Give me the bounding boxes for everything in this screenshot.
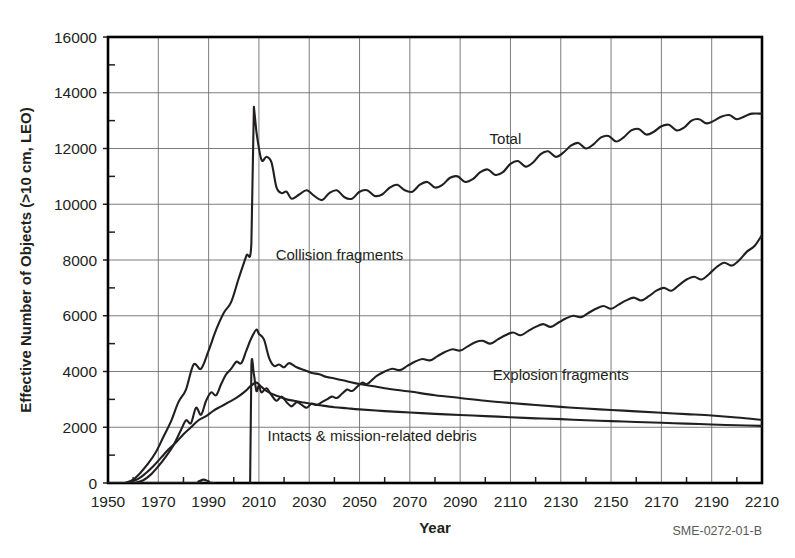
- series-label-intacts-mission-related-debris: Intacts & mission-related debris: [267, 427, 476, 444]
- xtick-label: 2150: [594, 493, 629, 510]
- xtick-label: 1950: [91, 493, 126, 510]
- ytick-label: 4000: [63, 363, 98, 380]
- xtick-label: 2030: [292, 493, 327, 510]
- ytick-label: 10000: [54, 196, 97, 213]
- ytick-label: 8000: [63, 252, 98, 269]
- ytick-label: 0: [88, 475, 97, 492]
- xtick-label: 2010: [242, 493, 277, 510]
- xtick-label: 2130: [544, 493, 579, 510]
- ytick-label: 12000: [54, 140, 97, 157]
- series-label-collision-fragments: Collision fragments: [276, 246, 404, 263]
- figure-id-label: SME-0272-01-B: [672, 524, 762, 538]
- xtick-label: 1970: [141, 493, 176, 510]
- space-debris-projection-chart: 0200040006000800010000120001400016000 19…: [0, 0, 795, 558]
- ytick-label: 16000: [54, 29, 97, 46]
- ytick-label: 14000: [54, 84, 97, 101]
- xtick-label: 2210: [745, 493, 780, 510]
- ytick-label: 2000: [63, 419, 98, 436]
- chart-canvas: 0200040006000800010000120001400016000 19…: [0, 0, 795, 558]
- xtick-label: 1990: [191, 493, 226, 510]
- x-axis-title: Year: [419, 519, 451, 536]
- series-label-explosion-fragments: Explosion fragments: [493, 366, 629, 383]
- xtick-label: 2190: [694, 493, 729, 510]
- chart-background: [0, 0, 795, 558]
- xtick-label: 2050: [342, 493, 377, 510]
- series-label-total: Total: [490, 130, 522, 147]
- xtick-label: 2110: [494, 493, 528, 510]
- xtick-label: 2170: [644, 493, 679, 510]
- xtick-label: 2070: [393, 493, 428, 510]
- y-axis-title: Effective Number of Objects (>10 cm, LEO…: [17, 107, 34, 413]
- xtick-label: 2090: [443, 493, 478, 510]
- ytick-label: 6000: [63, 307, 98, 324]
